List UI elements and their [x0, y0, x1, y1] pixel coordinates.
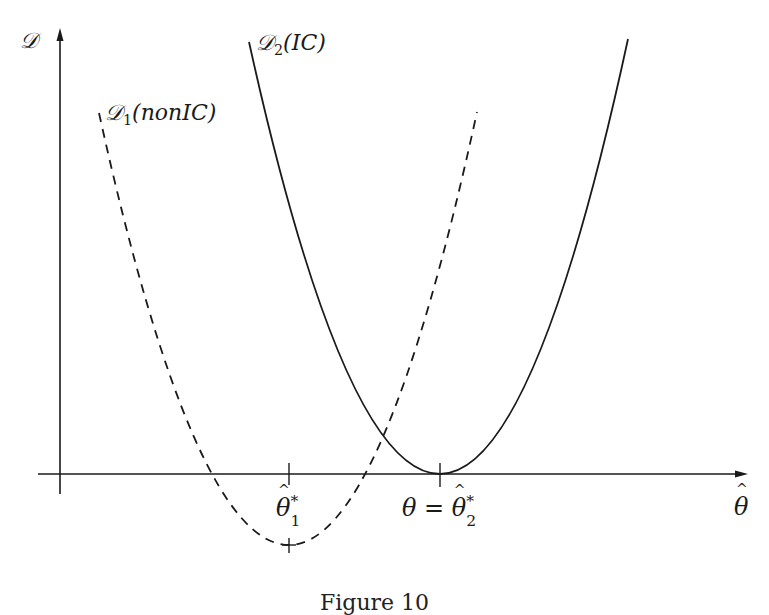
- curve-d1-subscript: 1: [123, 112, 132, 128]
- y-axis-arrow-icon: [57, 28, 64, 41]
- tick1-subscript: 1: [290, 512, 300, 530]
- x-axis-label: θ: [734, 493, 748, 521]
- curve-d2-tail: (IC): [283, 30, 326, 55]
- y-axis: [57, 28, 64, 494]
- curve-d2-subscript: 2: [274, 42, 283, 58]
- tick1-superscript: *: [290, 492, 298, 510]
- curve-d1-label: 𝒟1(nonIC): [105, 100, 216, 128]
- y-axis-symbol: 𝒟: [20, 28, 38, 53]
- x-axis: [38, 471, 748, 478]
- x-axis-arrow-icon: [735, 471, 748, 478]
- curve-d1-nonic: [99, 112, 477, 545]
- theta-hat-symbol: θ: [452, 494, 466, 522]
- curve-d2-symbol: 𝒟: [256, 30, 274, 55]
- theta-equals: θ =: [402, 494, 452, 522]
- tick2-subscript: 2: [466, 512, 476, 530]
- curve-d1-symbol: 𝒟: [105, 100, 123, 125]
- tick-label-theta2: θ = θ*2: [402, 494, 466, 522]
- curve-d2-label: 𝒟2(IC): [256, 30, 326, 58]
- figure-caption: Figure 10: [320, 590, 429, 615]
- curve-d2-ic: [249, 39, 628, 474]
- y-axis-label: 𝒟: [20, 28, 38, 53]
- tick-label-theta1: θ*1: [276, 494, 290, 522]
- curve-d1-tail: (nonIC): [132, 100, 216, 125]
- x-axis-symbol: θ: [734, 493, 748, 521]
- tick2-superscript: *: [466, 492, 474, 510]
- theta-hat-symbol: θ: [276, 494, 290, 522]
